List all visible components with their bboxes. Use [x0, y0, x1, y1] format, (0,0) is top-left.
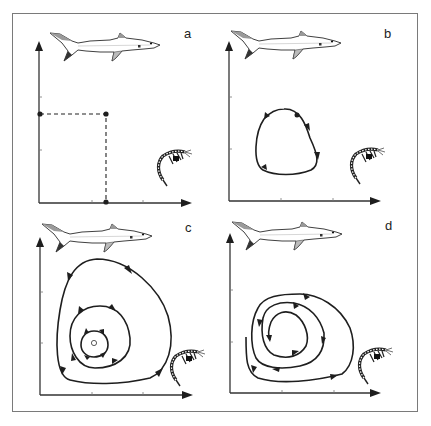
predator-prey-phase-figure: a b [0, 0, 431, 426]
shark-icon [42, 224, 152, 252]
y-axis [225, 41, 233, 201]
y-axis [36, 237, 44, 395]
shark-icon [231, 31, 341, 59]
equilibrium-projection [37, 111, 108, 204]
prey-level-dot [103, 199, 108, 204]
shrimp-icon [172, 350, 206, 386]
x-axis [39, 199, 192, 207]
y-axis [35, 41, 43, 203]
x-axis [230, 389, 381, 397]
inner-orbit [81, 328, 108, 360]
panel-d: d [226, 218, 393, 397]
neutral-centre-point [91, 340, 96, 345]
predator-level-dot [37, 111, 42, 116]
spiral-trajectory [246, 293, 353, 382]
equilibrium-dot [103, 111, 108, 116]
shark-icon [50, 33, 160, 61]
panel-label-d: d [385, 218, 392, 233]
shrimp-icon [159, 150, 193, 186]
x-axis [229, 197, 381, 205]
shrimp-icon [360, 348, 394, 384]
limit-cycle-orbit [256, 109, 320, 175]
panel-c: c [36, 220, 205, 399]
panel-label-c: c [185, 220, 192, 235]
panel-label-b: b [384, 26, 391, 41]
x-axis [40, 391, 193, 399]
panel-label-a: a [184, 26, 192, 41]
panel-b: b [225, 26, 391, 205]
shark-icon [232, 222, 342, 250]
middle-orbit [70, 304, 130, 368]
y-axis [226, 233, 234, 393]
shrimp-icon [352, 148, 386, 184]
panel-a: a [35, 26, 192, 207]
